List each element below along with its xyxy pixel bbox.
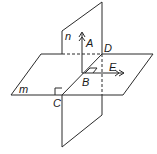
label-d: D (104, 42, 112, 54)
label-a: A (85, 37, 93, 49)
label-m: m (19, 83, 28, 95)
right-angle-mark-c (55, 88, 62, 95)
label-n: n (65, 30, 71, 42)
right-angle-mark-b (85, 68, 97, 73)
plane-n (62, 2, 102, 147)
label-b: B (82, 76, 89, 88)
plane-m-right-edge (123, 54, 153, 95)
plane-n-bottom-edge (62, 115, 102, 147)
perpendicular-planes-diagram: n m A B C D E (0, 0, 157, 154)
ray-ba (79, 32, 85, 73)
label-c: C (53, 97, 61, 109)
label-e: E (109, 61, 117, 73)
plane-n-top-edge (62, 2, 102, 31)
